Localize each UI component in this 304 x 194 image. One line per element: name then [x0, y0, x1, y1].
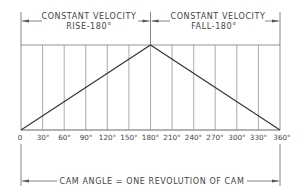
- rise-label-line2: RISE-180°: [66, 22, 112, 31]
- cam-angle-label: CAM ANGLE = ONE REVOLUTION OF CAM: [60, 177, 245, 186]
- tick-label: 120°: [99, 133, 116, 142]
- tick-label: 90°: [80, 133, 93, 142]
- rise-label-line1: CONSTANT VELOCITY: [41, 12, 136, 21]
- tick-label: 240°: [185, 133, 202, 142]
- tick-label: 180°: [142, 133, 159, 142]
- tick-label: 210°: [163, 133, 180, 142]
- cam-angle-dimension: CAM ANGLE = ONE REVOLUTION OF CAM: [22, 177, 279, 186]
- tick-label: 360°: [273, 133, 290, 142]
- tick-label: 150°: [120, 133, 137, 142]
- fall-dimension: CONSTANT VELOCITY FALL-180°: [152, 12, 280, 31]
- cam-displacement-diagram: CONSTANT VELOCITY RISE-180° CONSTANT VEL…: [0, 0, 304, 194]
- tick-label: 30°: [37, 133, 50, 142]
- rise-dimension: CONSTANT VELOCITY RISE-180°: [22, 12, 150, 31]
- fall-label-line2: FALL-180°: [191, 22, 237, 31]
- x-axis-ticks: 0 30° 60° 90° 120° 150° 180° 210° 240° 2…: [18, 133, 291, 142]
- tick-label: 300°: [228, 133, 245, 142]
- tick-label: 270°: [206, 133, 223, 142]
- tick-label: 60°: [58, 133, 71, 142]
- grid: [21, 45, 280, 130]
- fall-label-line1: CONSTANT VELOCITY: [170, 12, 265, 21]
- tick-label: 0: [18, 133, 23, 142]
- tick-label: 330°: [250, 133, 267, 142]
